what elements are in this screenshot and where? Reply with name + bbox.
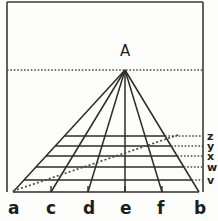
frame-border — [7, 2, 203, 192]
baseline-label-d: d — [83, 200, 95, 217]
ray-to-b — [125, 70, 199, 192]
baseline-label-f: f — [157, 200, 164, 217]
ray-to-f — [125, 70, 162, 192]
side-label-w: w — [207, 162, 217, 173]
baseline-label-c: c — [46, 200, 56, 217]
baseline-label-b: b — [194, 200, 206, 217]
baseline-label-a: a — [8, 200, 19, 217]
convergence-rays — [13, 70, 199, 192]
side-leader-lines — [165, 136, 203, 180]
baseline-ticks — [51, 186, 162, 192]
apex-label-A: A — [120, 44, 130, 59]
ray-to-d — [88, 70, 125, 192]
perspective-grid-figure: A acdefb zyxwv — [0, 0, 218, 221]
ray-to-a — [13, 70, 125, 192]
figure-canvas — [0, 0, 218, 221]
side-label-v: v — [207, 175, 214, 186]
baseline-label-e: e — [120, 200, 132, 217]
grid-row-lines — [24, 136, 192, 180]
